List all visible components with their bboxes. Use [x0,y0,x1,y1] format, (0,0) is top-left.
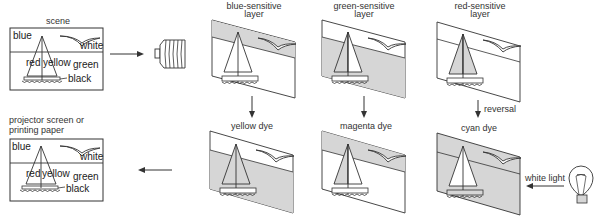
scene-label: scene [40,16,76,26]
scene-word-blue: blue [13,30,32,41]
output-word-white: white [80,151,103,162]
output-word-green: green [73,171,99,182]
dye-cyan-label: cyan dye [454,123,504,133]
dye-yellow [210,131,294,213]
layer-red-sensitive [437,22,521,102]
dye-yellow-label: yellow dye [222,121,282,131]
arrow-white-light [526,183,564,189]
white-light-label: white light [525,173,565,183]
dye-cyan [437,133,521,215]
output-label-line2: printing paper [9,125,64,135]
scene-word-yellow: yellow [43,57,71,68]
dye-magenta [322,131,406,213]
layer-green-label-2: layer [330,9,398,19]
camera-bellows-icon [155,40,185,68]
arrow-to-camera [110,51,144,57]
scene-word-white: white [80,40,103,51]
output-word-blue: blue [12,141,31,152]
layer-blue-label-2: layer [222,9,286,19]
arrow-to-output [138,167,172,173]
arrow-blue-to-yellow [249,96,255,118]
output-word-red: red [26,168,40,179]
scene-word-black: black [68,73,91,84]
light-bulb-icon [569,166,593,203]
scene-word-green: green [73,59,99,70]
output-word-yellow: yellow [42,168,70,179]
output-word-black: black [66,183,89,194]
dye-magenta-label: magenta dye [334,121,398,131]
layer-blue-sensitive [212,20,296,98]
layer-red-label-2: layer [448,9,512,19]
reversal-label: reversal [484,104,516,114]
layer-green-sensitive [322,20,406,98]
scene-word-red: red [26,57,40,68]
output-label-line1: projector screen or [9,115,84,125]
arrow-red-to-cyan-reversal [475,100,481,118]
arrow-green-to-magenta [361,96,367,118]
